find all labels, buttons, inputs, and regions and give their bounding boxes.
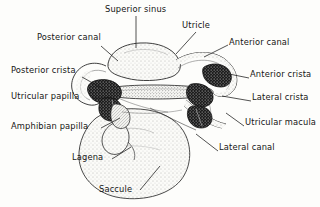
label-posterior-canal: Posterior canal bbox=[37, 33, 101, 42]
label-utricular-papilla: Utricular papilla bbox=[11, 92, 79, 101]
leader-lateral-crista bbox=[222, 96, 251, 101]
leader-lateral-canal bbox=[196, 134, 218, 151]
label-lagena: Lagena bbox=[72, 153, 103, 162]
label-posterior-crista: Posterior crista bbox=[11, 66, 76, 75]
leader-utricle bbox=[176, 32, 196, 54]
amphibian-papilla-mass bbox=[111, 104, 130, 129]
label-lateral-canal: Lateral canal bbox=[219, 143, 275, 152]
label-anterior-canal: Anterior canal bbox=[229, 38, 290, 47]
label-saccule: Saccule bbox=[99, 185, 132, 194]
figure-canvas: Superior sinusUtriclePosterior canalAnte… bbox=[0, 0, 320, 207]
label-amphibian-papilla: Amphibian papilla bbox=[11, 122, 88, 131]
label-superior-sinus: Superior sinus bbox=[105, 5, 166, 14]
label-anterior-crista: Anterior crista bbox=[250, 70, 311, 79]
label-utricular-macula: Utricular macula bbox=[245, 118, 316, 127]
label-utricle: Utricle bbox=[182, 21, 210, 30]
anterior-crista-mass bbox=[203, 64, 232, 87]
superior-sinus-body bbox=[108, 43, 181, 81]
leader-utricular-macula bbox=[226, 113, 244, 126]
utricular-macula-mass bbox=[187, 106, 212, 128]
label-lateral-crista: Lateral crista bbox=[252, 93, 309, 102]
